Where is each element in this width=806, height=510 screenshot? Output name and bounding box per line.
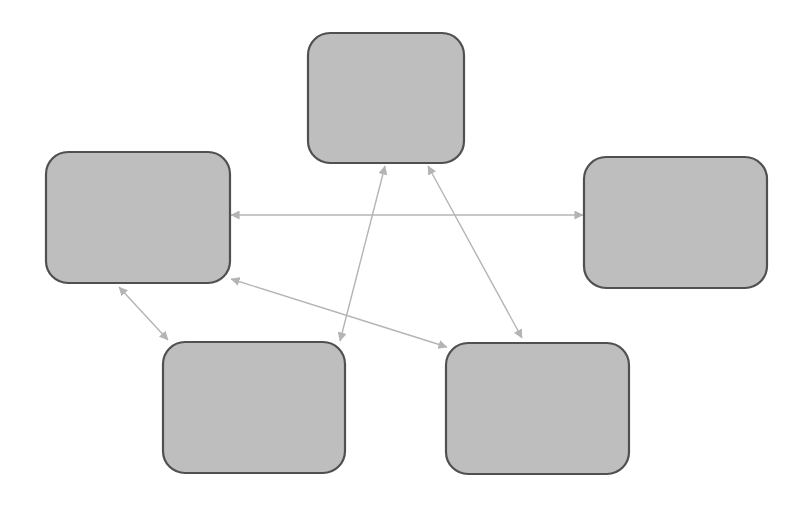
- node-top: [308, 33, 464, 163]
- nodes-layer: [46, 33, 767, 474]
- node-bottom-right: [446, 343, 629, 474]
- node-box: [446, 343, 629, 474]
- node-left: [46, 152, 230, 283]
- node-right: [584, 157, 767, 288]
- edge-left-bottom-left: [119, 287, 168, 340]
- node-box: [308, 33, 464, 163]
- node-bottom-left: [163, 342, 345, 473]
- node-box: [584, 157, 767, 288]
- node-box: [163, 342, 345, 473]
- edge-left-bottom-right: [231, 279, 447, 347]
- node-box: [46, 152, 230, 283]
- edge-top-bottom-right: [428, 166, 522, 338]
- network-diagram: [0, 0, 806, 510]
